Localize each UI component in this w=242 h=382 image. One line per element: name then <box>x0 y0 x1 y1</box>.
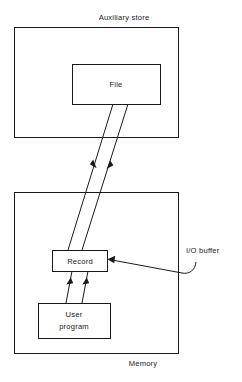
arrowhead-user-program-to-record-left <box>66 277 73 284</box>
user-program-box <box>39 304 111 339</box>
memory-container <box>15 193 179 354</box>
arrowhead-user-program-to-record-right <box>82 277 89 284</box>
connector-user-program-to-record-right <box>82 271 88 303</box>
connector-user-program-to-record-left <box>66 271 72 303</box>
user-program-box-label-line2: program <box>59 322 89 331</box>
storage-io-buffer-diagram: Auxiliary store File Memory Record User … <box>0 0 242 382</box>
diagram-canvas: Auxiliary store File Memory Record User … <box>0 0 242 382</box>
io-buffer-label: I/O buffer <box>186 246 220 255</box>
connector-file-to-record <box>68 104 113 250</box>
user-program-box-label-line1: User <box>66 310 83 319</box>
file-box-label: File <box>109 80 122 89</box>
arrowhead-record-to-file <box>107 160 114 169</box>
auxiliary-store-container <box>15 28 179 138</box>
auxiliary-store-label: Auxiliary store <box>99 13 150 22</box>
connector-record-to-file <box>82 104 128 250</box>
memory-label: Memory <box>129 359 158 368</box>
arrowhead-io-buffer-to-record <box>107 256 115 263</box>
record-box-label: Record <box>67 257 93 266</box>
io-buffer-leader-line <box>112 260 196 273</box>
